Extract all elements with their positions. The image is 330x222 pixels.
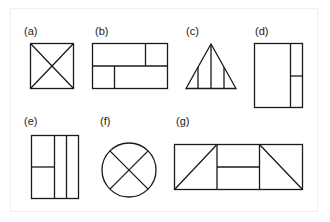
figure-e — [32, 136, 79, 199]
figure-d — [255, 44, 303, 108]
figure-g — [175, 145, 303, 190]
figure-c — [186, 44, 236, 89]
figure-b — [93, 44, 168, 89]
figure-a — [31, 44, 74, 89]
figure-f — [102, 143, 156, 197]
figures-canvas — [0, 0, 330, 222]
